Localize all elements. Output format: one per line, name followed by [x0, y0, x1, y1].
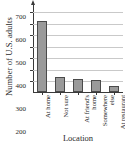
y-tick-label: 300 [16, 105, 27, 113]
x-tick-label-line: At home [44, 95, 51, 133]
y-tick-label: 500 [16, 59, 27, 67]
x-tick-label-line: home [90, 95, 97, 133]
x-tick-label: At friend'shome [83, 95, 97, 133]
chart-title-cropped [0, 0, 125, 5]
x-tick-label: Somewhereelse [101, 95, 115, 133]
y-tick-label: 700 [16, 13, 27, 21]
y-tick-label: 600 [16, 36, 27, 44]
bar [55, 77, 65, 92]
bar-slot [37, 8, 47, 92]
x-tick-label: Not sure [62, 95, 69, 133]
x-tick-label-line: At restaurant [119, 95, 126, 133]
x-tick-label-line: Somewhere [101, 95, 108, 133]
x-tick-label-line: Not sure [62, 95, 69, 133]
x-tick-label: At home [44, 95, 51, 133]
y-tick-label: 400 [16, 82, 27, 90]
x-axis-title: Location [33, 133, 123, 143]
y-axis-title: Number of U.S. adults [4, 20, 14, 96]
bar [91, 80, 101, 92]
plot-area: 100200300400500600700 [33, 8, 123, 93]
bar-chart-figure: Number of U.S. adults 100200300400500600… [0, 0, 125, 145]
bar-slot [109, 8, 119, 92]
y-axis-arrow-icon [31, 0, 35, 5]
x-tick-label-line: else [108, 95, 115, 133]
bar-slot [55, 8, 65, 92]
x-tick-label: At restaurantor bar [119, 95, 126, 133]
y-tick-label: 200 [16, 128, 27, 136]
bar-slot [91, 8, 101, 92]
x-axis-tick-labels: At homeNot sureAt friend'shomeSomewheree… [33, 95, 123, 133]
x-tick-label-line: At friend's [83, 95, 90, 133]
bar [37, 21, 47, 92]
bar [73, 79, 83, 92]
bar-series [33, 8, 123, 92]
bar-slot [73, 8, 83, 92]
